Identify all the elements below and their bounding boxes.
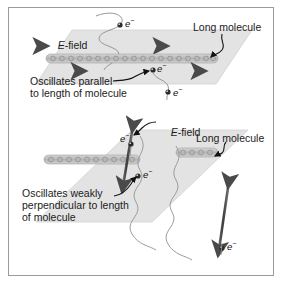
- efield-italic-e-top: E: [58, 39, 65, 51]
- caption-perpendicular-line3: of molecule: [22, 212, 76, 224]
- figure-root: E-field Long molecule Oscillates paralle…: [0, 0, 284, 285]
- electron-charge: −: [125, 132, 129, 139]
- long-molecule-label-bottom: Long molecule: [196, 133, 264, 145]
- electron-label-top-1: e−: [125, 17, 134, 29]
- caption-perpendicular-line1: Oscillates weakly: [22, 188, 103, 200]
- electron-label-top-2: e−: [157, 62, 166, 74]
- electron-charge: −: [130, 17, 134, 24]
- caption-perpendicular-line2: perpendicular to length: [22, 200, 129, 212]
- electron-charge: −: [148, 168, 152, 175]
- electron-icon-bottom-2: [135, 173, 140, 178]
- electron-charge: −: [162, 62, 166, 69]
- electron-charge: −: [178, 86, 182, 93]
- electron-icon-top-1: [117, 22, 122, 27]
- efield-label-top: E-field: [46, 28, 87, 63]
- electron-charge: −: [232, 240, 236, 247]
- caption-parallel-line2: to length of molecule: [30, 88, 127, 100]
- caption-parallel-line1: Oscillates parallel: [30, 76, 112, 88]
- electron-label-top-3: e−: [173, 86, 182, 98]
- electron-icon-top-2: [150, 67, 155, 72]
- efield-italic-e-bottom: E: [171, 126, 178, 138]
- electron-icon-top-3: [165, 89, 170, 94]
- electron-label-bottom-1: e−: [120, 132, 129, 144]
- electron-label-bottom-2: e−: [143, 168, 152, 180]
- efield-label-bottom: E-field: [159, 115, 200, 150]
- electron-label-bottom-3: e−: [227, 240, 236, 252]
- long-molecule-label-top: Long molecule: [193, 22, 261, 34]
- efield-rest-top: -field: [65, 39, 88, 51]
